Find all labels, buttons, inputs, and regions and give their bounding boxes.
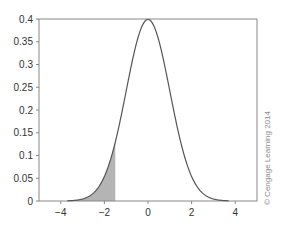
y-tick-label: 0.1 <box>19 150 33 161</box>
y-tick-label: 0.3 <box>19 59 33 70</box>
x-tick-label: −2 <box>99 207 111 218</box>
plot-frame <box>39 19 257 201</box>
y-tick-label: 0.25 <box>14 82 34 93</box>
x-tick-label: −4 <box>55 207 67 218</box>
density-curve <box>67 19 228 200</box>
x-tick-label: 4 <box>232 207 238 218</box>
x-tick-label: 0 <box>145 207 151 218</box>
x-axis: −4−2024 <box>55 201 238 218</box>
x-tick-label: 2 <box>189 207 195 218</box>
copyright-credit: © Cengage Learning 2014 <box>263 110 272 205</box>
y-tick-label: 0.4 <box>19 14 33 25</box>
y-tick-label: 0.2 <box>19 105 33 116</box>
shaded-left-tail <box>67 142 115 201</box>
y-tick-label: 0.35 <box>14 36 34 47</box>
y-axis: 00.050.10.150.20.250.30.350.4 <box>14 14 39 207</box>
normal-distribution-chart: 00.050.10.150.20.250.30.350.4 −4−2024 © … <box>0 0 281 232</box>
y-tick-label: 0.05 <box>14 173 34 184</box>
y-tick-label: 0.15 <box>14 127 34 138</box>
y-tick-label: 0 <box>27 196 33 207</box>
